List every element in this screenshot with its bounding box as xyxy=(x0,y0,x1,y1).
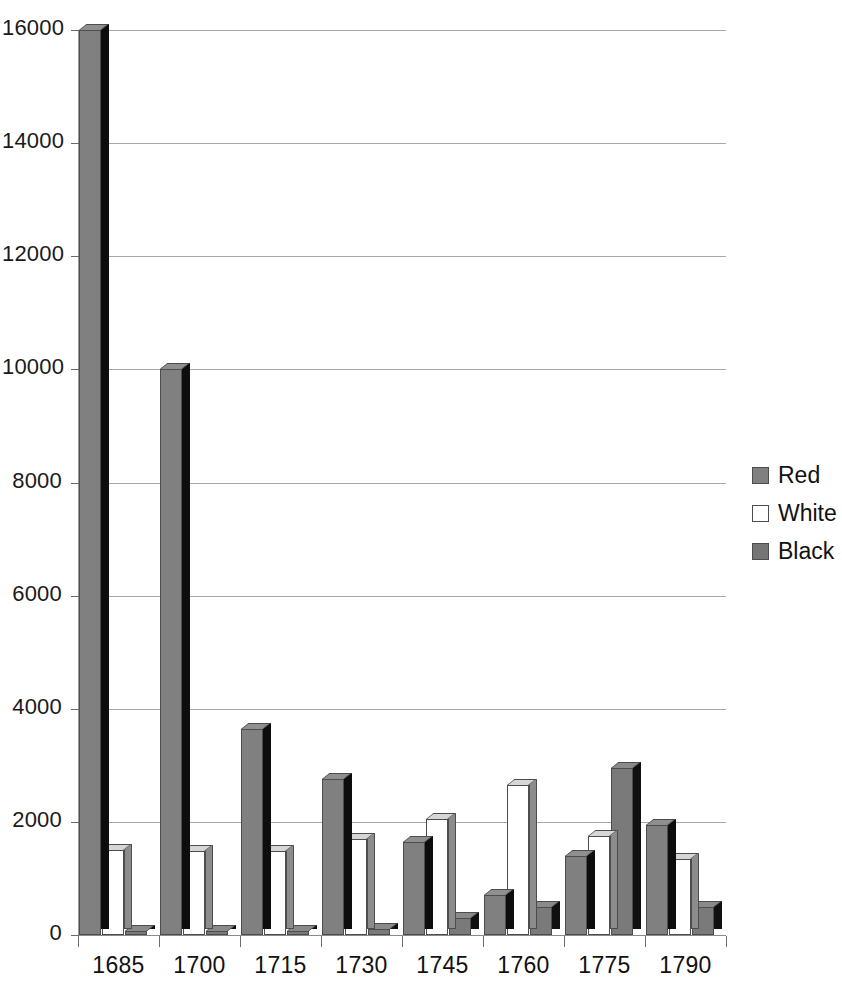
bar-side-face xyxy=(344,773,352,929)
bar-red-1700 xyxy=(160,369,182,935)
bar-front-face xyxy=(322,779,344,935)
y-tick-label: 0 xyxy=(2,922,62,944)
bar-chart: 0200040006000800010000120001400016000 16… xyxy=(0,0,842,1007)
x-tick-label-1790: 1790 xyxy=(641,952,731,978)
legend-label: Red xyxy=(778,463,820,487)
y-tick-label: 12000 xyxy=(2,243,62,265)
bar-black-1730 xyxy=(368,929,390,935)
bar-red-1685 xyxy=(79,30,101,935)
x-tick-mark xyxy=(564,936,565,947)
bar-side-face xyxy=(182,363,190,929)
bar-front-face xyxy=(565,856,587,935)
bar-side-face xyxy=(425,836,433,929)
x-tick-mark xyxy=(78,936,79,947)
bar-front-face xyxy=(125,931,147,935)
bar-red-1775 xyxy=(565,856,587,935)
x-tick-label-1760: 1760 xyxy=(479,952,569,978)
legend-item-white[interactable]: White xyxy=(752,494,842,532)
x-tick-label-1700: 1700 xyxy=(155,952,245,978)
bar-front-face xyxy=(79,30,101,935)
bar-red-1715 xyxy=(241,729,263,935)
legend: RedWhiteBlack xyxy=(752,456,842,570)
bar-side-face xyxy=(286,845,294,929)
bar-side-face xyxy=(448,813,456,929)
bar-red-1730 xyxy=(322,779,344,935)
bar-side-face xyxy=(529,779,537,929)
bar-side-face xyxy=(633,762,641,929)
swatch-white-icon xyxy=(752,505,769,522)
x-tick-label-1715: 1715 xyxy=(236,952,326,978)
legend-label: White xyxy=(778,501,837,525)
bar-black-1715 xyxy=(287,931,309,935)
x-tick-mark xyxy=(726,936,727,947)
bar-side-face xyxy=(205,845,213,929)
bar-side-face xyxy=(506,889,514,929)
bar-side-face xyxy=(587,850,595,929)
x-tick-label-1730: 1730 xyxy=(317,952,407,978)
y-tick-label: 10000 xyxy=(2,356,62,378)
bar-front-face xyxy=(160,369,182,935)
y-axis-tick-labels: 0200040006000800010000120001400016000 xyxy=(0,0,62,1007)
bar-front-face xyxy=(646,825,668,935)
y-tick-label: 8000 xyxy=(2,470,62,492)
x-tick-label-1775: 1775 xyxy=(560,952,650,978)
plot-area xyxy=(78,30,726,935)
bar-front-face xyxy=(206,931,228,935)
bar-side-face xyxy=(124,844,132,929)
x-tick-mark xyxy=(159,936,160,947)
x-tick-label-1745: 1745 xyxy=(398,952,488,978)
x-tick-mark xyxy=(240,936,241,947)
gridline xyxy=(78,30,726,31)
x-tick-mark xyxy=(321,936,322,947)
y-tick-label: 6000 xyxy=(2,583,62,605)
bar-front-face xyxy=(368,929,390,935)
swatch-black-icon xyxy=(752,543,769,560)
bar-black-1685 xyxy=(125,931,147,935)
bar-black-1700 xyxy=(206,931,228,935)
swatch-red-icon xyxy=(752,467,769,484)
x-tick-mark xyxy=(645,936,646,947)
y-tick-label: 16000 xyxy=(2,17,62,39)
gridline xyxy=(78,143,726,144)
legend-label: Black xyxy=(778,539,834,563)
bar-front-face xyxy=(403,842,425,935)
y-tick-label: 14000 xyxy=(2,130,62,152)
gridline xyxy=(78,256,726,257)
bar-side-face xyxy=(367,833,375,929)
y-tick-label: 2000 xyxy=(2,809,62,831)
bar-red-1745 xyxy=(403,842,425,935)
bar-front-face xyxy=(287,931,309,935)
legend-item-black[interactable]: Black xyxy=(752,532,842,570)
bar-red-1760 xyxy=(484,895,506,935)
bar-side-face xyxy=(668,819,676,929)
y-tick-label: 4000 xyxy=(2,696,62,718)
legend-item-red[interactable]: Red xyxy=(752,456,842,494)
bar-red-1790 xyxy=(646,825,668,935)
bar-front-face xyxy=(241,729,263,935)
x-tick-label-1685: 1685 xyxy=(74,952,164,978)
x-tick-mark xyxy=(483,936,484,947)
bar-side-face xyxy=(101,24,109,929)
x-tick-mark xyxy=(402,936,403,947)
bar-side-face xyxy=(691,853,699,929)
bar-side-face xyxy=(263,723,271,929)
bar-front-face xyxy=(484,895,506,935)
bar-side-face xyxy=(610,830,618,929)
